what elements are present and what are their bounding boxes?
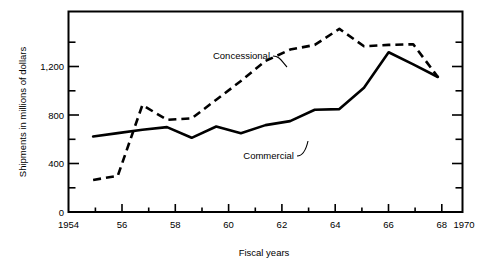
x-tick-label: 1970 [453,219,474,230]
y-tick-label: 400 [48,158,64,169]
chart-canvas: 1,200 800 400 0 1954 56 58 60 62 64 66 6… [0,0,491,272]
x-tick-label: 66 [383,219,394,230]
x-axis-title: Fiscal years [239,247,290,258]
x-tick-label: 56 [117,219,128,230]
x-tick-labels: 1954 56 58 60 62 64 66 68 1970 [58,219,475,230]
series-label-commercial: Commercial [243,150,294,161]
y-tick-label: 1,200 [40,61,64,72]
x-tick-label: 1954 [58,219,79,230]
series-label-concessional: Concessional [213,50,270,61]
y-tick-label: 800 [48,110,64,121]
y-tick-labels: 1,200 800 400 0 [40,61,64,218]
x-tick-label: 64 [330,219,341,230]
plot-frame [69,12,463,213]
line-chart: 1,200 800 400 0 1954 56 58 60 62 64 66 6… [0,0,491,272]
x-tick-label: 58 [170,219,181,230]
x-tick-label: 62 [277,219,288,230]
y-tick-label: 0 [59,207,64,218]
x-tick-label: 60 [223,219,234,230]
y-axis-title: Shipments in millions of dollars [17,47,28,178]
x-tick-label: 68 [437,219,448,230]
